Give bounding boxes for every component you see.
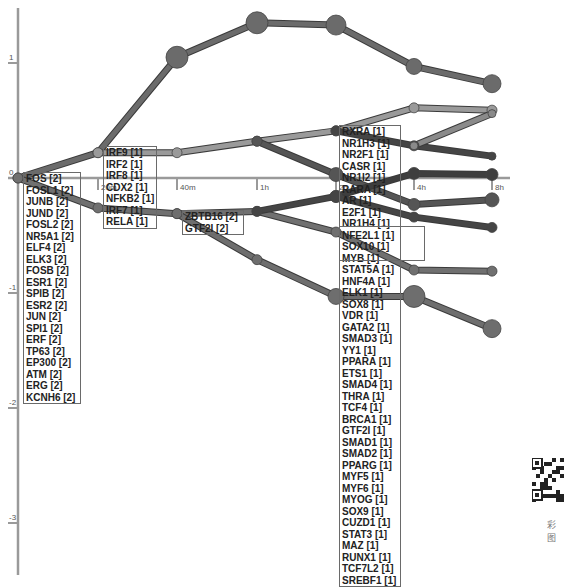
path-top xyxy=(18,23,492,178)
tf-label: FOSB [2] xyxy=(26,265,78,277)
x-tick-label: 4h xyxy=(417,183,426,192)
qr-code-icon xyxy=(532,458,564,502)
tf-label: ETS1 [1] xyxy=(342,368,398,380)
y-tick-label: -3 xyxy=(9,513,17,522)
path-node[interactable] xyxy=(488,152,496,160)
path-node[interactable] xyxy=(408,198,420,210)
tf-label: KCNH6 [2] xyxy=(26,392,78,404)
x-tick-label: 8h xyxy=(495,183,504,192)
y-tick-label: -1 xyxy=(9,283,17,292)
tf-label: JUNB [2] xyxy=(26,196,78,208)
tf-label: ATM [2] xyxy=(26,369,78,381)
tf-label: GATA2 [1] xyxy=(342,322,398,334)
tf-label: MYF6 [1] xyxy=(342,483,398,495)
tf-label-box-fos-group: FOS [2]FOSL1 [2]JUNB [2]JUND [2]FOSL2 [2… xyxy=(23,172,81,404)
tf-label: JUND [2] xyxy=(26,208,78,220)
tf-label: THRA [1] xyxy=(342,391,398,403)
x-tick-label: 40m xyxy=(180,183,196,192)
tf-label: ERF [2] xyxy=(26,334,78,346)
tf-label: FOSL2 [2] xyxy=(26,219,78,231)
path-node[interactable] xyxy=(93,203,103,213)
tf-label: TCF7L2 [1] xyxy=(342,563,398,575)
path-node[interactable] xyxy=(246,12,268,34)
tf-label: SPIB [2] xyxy=(26,288,78,300)
tf-label: SREBF1 [1] xyxy=(342,575,398,587)
path-node[interactable] xyxy=(409,212,419,222)
path-node[interactable] xyxy=(252,206,262,216)
tf-label: SOX8 [1] xyxy=(342,299,398,311)
x-tick-label: 1h xyxy=(260,183,269,192)
tf-label: CUZD1 [1] xyxy=(342,517,398,529)
tf-label: HNF4A [1] xyxy=(342,276,398,288)
tf-label: EP300 [2] xyxy=(26,357,78,369)
path-node[interactable] xyxy=(488,110,496,118)
tf-label: BRCA1 [1] xyxy=(342,414,398,426)
tf-label: VDR [1] xyxy=(342,310,398,322)
path-node[interactable] xyxy=(326,15,346,35)
path-node[interactable] xyxy=(486,169,498,181)
tf-label: STAT5A [1] xyxy=(342,264,398,276)
tf-label: GTF2I [2] xyxy=(185,223,241,235)
tf-label: TP63 [2] xyxy=(26,346,78,358)
path-node[interactable] xyxy=(252,136,262,146)
tf-label: PPARA [1] xyxy=(342,356,398,368)
path-node[interactable] xyxy=(487,266,497,276)
tf-label: NR1I2 [1] xyxy=(342,172,398,184)
path-node[interactable] xyxy=(408,167,420,179)
path-node[interactable] xyxy=(166,46,188,68)
path-node[interactable] xyxy=(93,148,103,158)
tf-label: IRF9 [1] xyxy=(106,147,154,159)
path-node[interactable] xyxy=(406,58,422,74)
tf-label: IRF7 [1] xyxy=(106,205,154,217)
tf-label-box-rxra-group: RXRA [1]NR1H3 [1]NR2F1 [1]CASR [1]NR1I2 … xyxy=(339,125,401,587)
path-node[interactable] xyxy=(483,75,501,93)
tf-label: STAT3 [1] xyxy=(342,529,398,541)
tf-label: ERG [2] xyxy=(26,380,78,392)
tf-label: RUNX1 [1] xyxy=(342,552,398,564)
tf-label: SPI1 [2] xyxy=(26,323,78,335)
tf-label: FOS [2] xyxy=(26,173,78,185)
path-node[interactable] xyxy=(487,222,497,232)
tf-label: CDX2 [1] xyxy=(106,182,154,194)
tf-label: NR5A1 [2] xyxy=(26,231,78,243)
path-node[interactable] xyxy=(252,255,262,265)
path-node[interactable] xyxy=(410,142,418,150)
tf-label: RXRA [1] xyxy=(342,126,398,138)
tf-label: PPARG [1] xyxy=(342,460,398,472)
tf-label: ELK1 [1] xyxy=(342,287,398,299)
path-node[interactable] xyxy=(409,265,419,275)
path-node[interactable] xyxy=(409,103,419,113)
path-node[interactable] xyxy=(483,320,501,338)
tf-label: E2F1 [1] xyxy=(342,207,398,219)
tf-label: ESR2 [2] xyxy=(26,300,78,312)
tf-label: NFKB2 [1] xyxy=(106,193,154,205)
path-node[interactable] xyxy=(485,193,499,207)
tf-label: SMAD4 [1] xyxy=(342,379,398,391)
tf-label: MYOG [1] xyxy=(342,494,398,506)
tf-label: RARA [1] xyxy=(342,184,398,196)
tf-label: SOX9 [1] xyxy=(342,506,398,518)
tf-label: GTF2I [1] xyxy=(342,425,398,437)
axes: 10-1-2-320m40m1h2h4h8h xyxy=(8,8,510,575)
tf-label: SMAD1 [1] xyxy=(342,437,398,449)
y-tick-label: 1 xyxy=(9,53,14,62)
tf-label: FOSL1 [2] xyxy=(26,185,78,197)
tf-label: NR1H3 [1] xyxy=(342,138,398,150)
path-node[interactable] xyxy=(172,209,182,219)
path-node[interactable] xyxy=(172,148,182,158)
tf-label-box-zbtb-group: ZBTB16 [2]GTF2I [2] xyxy=(182,210,244,235)
tf-label: SMAD2 [1] xyxy=(342,448,398,460)
tf-label: RELA [1] xyxy=(106,216,154,228)
tf-label: MYF5 [1] xyxy=(342,471,398,483)
tf-label: ZBTB16 [2] xyxy=(185,211,241,223)
tf-label: AR [1] xyxy=(342,195,398,207)
tf-label: TCF4 [1] xyxy=(342,402,398,414)
tf-label-box-irf-group: IRF9 [1]IRF2 [1]IRF8 [1]CDX2 [1]NFKB2 [1… xyxy=(103,146,157,229)
watermark-caption: 彩图 xyxy=(547,518,564,544)
tf-label: SMAD3 [1] xyxy=(342,333,398,345)
path-node[interactable] xyxy=(13,173,23,183)
tf-label: IRF8 [1] xyxy=(106,170,154,182)
tf-label: ELF4 [2] xyxy=(26,242,78,254)
path-node[interactable] xyxy=(403,285,425,307)
